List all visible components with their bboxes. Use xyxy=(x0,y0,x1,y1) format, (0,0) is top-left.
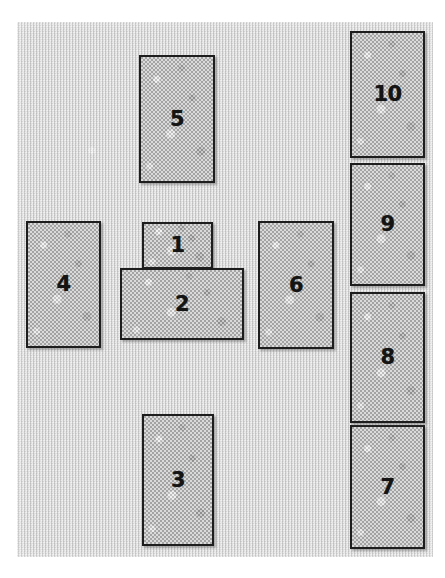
box-8[interactable]: 8 xyxy=(350,292,425,423)
box-8-label: 8 xyxy=(380,347,394,368)
box-6[interactable]: 6 xyxy=(258,221,334,349)
box-1[interactable]: 1 xyxy=(142,222,213,269)
diagram-canvas: 12345678910 xyxy=(0,0,445,578)
box-6-label: 6 xyxy=(289,275,303,296)
box-9-label: 9 xyxy=(380,214,394,235)
box-7[interactable]: 7 xyxy=(350,425,425,549)
box-3[interactable]: 3 xyxy=(142,414,214,546)
box-4[interactable]: 4 xyxy=(26,221,101,348)
box-2[interactable]: 2 xyxy=(120,268,244,340)
box-5-label: 5 xyxy=(170,109,184,130)
box-4-label: 4 xyxy=(56,274,70,295)
box-10-label: 10 xyxy=(373,84,401,105)
box-10[interactable]: 10 xyxy=(350,31,425,158)
box-2-label: 2 xyxy=(175,294,189,315)
box-1-label: 1 xyxy=(170,235,184,256)
box-5[interactable]: 5 xyxy=(139,55,215,183)
box-3-label: 3 xyxy=(171,470,185,491)
box-7-label: 7 xyxy=(380,477,394,498)
box-9[interactable]: 9 xyxy=(350,163,425,286)
